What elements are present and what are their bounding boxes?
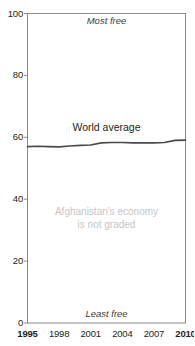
annotation-not-graded: Afghanistan's economy is not graded xyxy=(27,206,186,231)
x-axis-label-2004: 2004 xyxy=(106,328,138,339)
annotation-not-graded-line2: is not graded xyxy=(27,219,186,232)
x-axis-label-1995: 1995 xyxy=(12,328,44,339)
y-axis-label-60: 60 xyxy=(1,132,23,142)
x-axis-labels: 199519982001200420072010 xyxy=(0,328,194,344)
x-axis-label-1998: 1998 xyxy=(43,328,75,339)
annotation-series-label: World average xyxy=(27,121,186,133)
y-axis-label-20: 20 xyxy=(1,256,23,266)
y-axis-label-0: 0 xyxy=(1,318,23,328)
x-axis-label-2010: 2010 xyxy=(170,328,195,339)
y-axis-label-80: 80 xyxy=(1,70,23,80)
y-axis-labels: 020406080100 xyxy=(0,0,23,346)
y-axis-label-100: 100 xyxy=(1,9,23,19)
y-axis-ticks xyxy=(24,14,28,324)
y-axis-label-40: 40 xyxy=(1,194,23,204)
x-axis-label-2001: 2001 xyxy=(75,328,107,339)
x-axis-label-2007: 2007 xyxy=(138,328,170,339)
plot-frame xyxy=(28,14,186,324)
economic-freedom-chart: Economic freedom 020406080100 1995199820… xyxy=(0,0,194,346)
annotation-most-free: Most free xyxy=(27,15,186,26)
plot-area xyxy=(0,0,194,346)
annotation-not-graded-line1: Afghanistan's economy xyxy=(55,206,158,217)
annotation-least-free: Least free xyxy=(27,308,186,319)
